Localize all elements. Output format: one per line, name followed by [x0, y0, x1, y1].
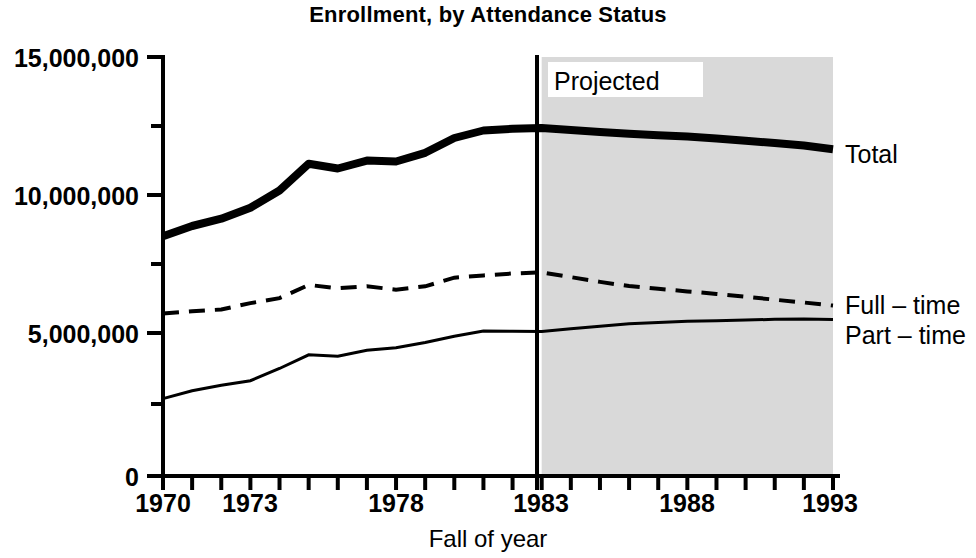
x-tick-label-1983: 1983 [513, 489, 569, 517]
x-tick-label-1978: 1978 [368, 489, 424, 517]
y-tick-label-5m: 5,000,000 [28, 320, 139, 348]
x-axis-title: Fall of year [429, 525, 548, 552]
y-tick-label-15m: 15,000,000 [14, 44, 139, 72]
chart-figure: Enrollment, by Attendance Status Project… [0, 0, 976, 558]
x-tick-label-1973: 1973 [222, 489, 278, 517]
series-label-total: Total [845, 140, 898, 168]
x-tick-label-1988: 1988 [659, 489, 715, 517]
x-axis-ticks [163, 476, 833, 490]
series-label-part-time: Part – time [845, 321, 966, 349]
projected-label: Projected [554, 67, 660, 95]
series-label-full-time: Full – time [845, 291, 960, 319]
projected-region-shading [542, 57, 833, 476]
y-tick-label-0: 0 [125, 463, 139, 491]
y-axis-major-ticks [147, 57, 163, 476]
y-tick-label-10m: 10,000,000 [14, 182, 139, 210]
x-tick-label-1970: 1970 [135, 489, 191, 517]
chart-canvas: Projected 15,000,000 10,000,000 5,000,00… [0, 0, 976, 558]
x-tick-label-1993: 1993 [802, 489, 858, 517]
